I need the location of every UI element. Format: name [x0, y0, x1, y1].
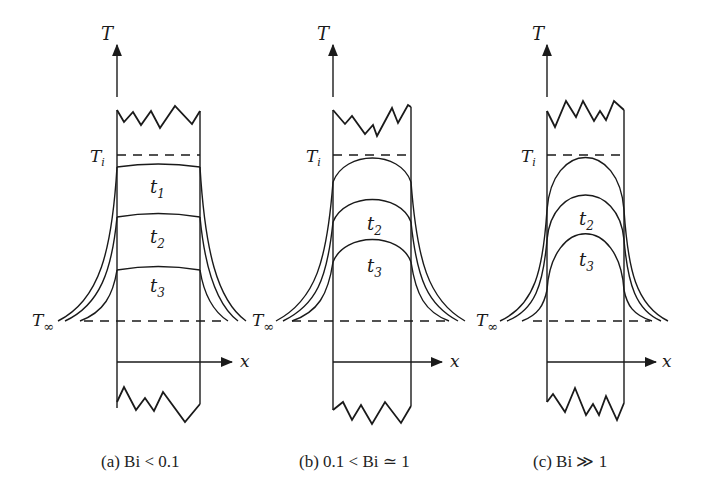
biot-number-diagram: T Ti T∞ x t1 t2 t3 (a) Bi < 0.1 — [0, 0, 706, 487]
profile-t1 — [117, 164, 200, 167]
wall-top-break-line — [333, 105, 411, 136]
profile-t1 — [547, 158, 624, 211]
ambient-temperature-label-left: T∞ — [32, 310, 54, 334]
initial-temperature-label: Ti — [521, 146, 536, 169]
fluid-curve-left-1 — [500, 210, 547, 321]
time-label-t3: t3 — [367, 255, 382, 280]
wall-top-break-line — [547, 101, 624, 127]
fluid-curve-right-3 — [200, 270, 228, 321]
ambient-temperature-label: T∞ — [252, 310, 274, 334]
temperature-axis-label: T — [317, 23, 331, 44]
fluid-curve-right-3 — [411, 262, 449, 321]
position-axis-label: x — [450, 351, 460, 371]
wall-top-break-line — [117, 106, 200, 128]
profile-t1 — [333, 158, 411, 182]
time-label-t1: t1 — [150, 176, 165, 201]
fluid-curve-left-3 — [80, 270, 117, 321]
fluid-curve-right-2 — [624, 240, 661, 321]
wall-bottom-break-line — [117, 387, 200, 422]
caption-b: (b) 0.1 < Bi ≃ 1 — [299, 452, 410, 471]
ambient-temperature-label: T∞ — [476, 310, 498, 334]
profile-t2 — [117, 214, 200, 218]
temperature-axis-label: T — [532, 23, 546, 44]
initial-temperature-label: Ti — [306, 146, 321, 169]
panel-c: T Ti T∞ x t2 t3 (c) Bi ≫ 1 — [476, 23, 672, 471]
wall-bottom-break-line — [333, 402, 411, 424]
initial-temperature-label: Ti — [90, 146, 105, 169]
position-axis-label: x — [662, 351, 672, 371]
panel-b: T Ti T∞ x t2 t3 (b) 0.1 < Bi ≃ 1 — [252, 23, 465, 471]
time-label-t2: t2 — [150, 226, 165, 251]
fluid-curve-right-1 — [411, 182, 465, 321]
fluid-curve-right-1 — [624, 210, 668, 321]
panel-a: T Ti T∞ x t1 t2 t3 (a) Bi < 0.1 — [32, 23, 250, 471]
caption-c: (c) Bi ≫ 1 — [533, 452, 607, 471]
fluid-curve-left-1 — [276, 182, 333, 321]
time-label-t3: t3 — [579, 249, 594, 274]
time-label-t3: t3 — [150, 275, 165, 300]
fluid-curve-left-2 — [283, 222, 333, 321]
temperature-axis-label: T — [101, 23, 115, 44]
time-label-t2: t2 — [579, 208, 594, 233]
position-axis-label: x — [240, 351, 250, 371]
caption-a: (a) Bi < 0.1 — [101, 452, 180, 471]
profile-t3 — [117, 267, 200, 271]
fluid-curve-left-2 — [507, 240, 547, 321]
wall-bottom-break-line — [547, 388, 624, 420]
fluid-curve-left-3 — [522, 290, 547, 321]
time-label-t2: t2 — [367, 213, 382, 238]
fluid-curve-right-1 — [200, 167, 246, 321]
fluid-curve-right-2 — [200, 217, 238, 321]
